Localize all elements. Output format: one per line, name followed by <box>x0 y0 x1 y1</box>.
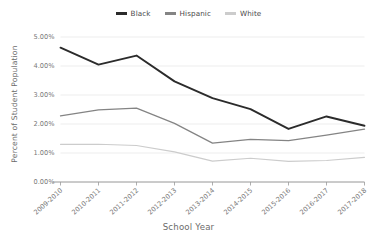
y-tick-label: 5.00% <box>34 33 55 41</box>
series-line-black <box>61 48 365 129</box>
y-tick-label: 2.00% <box>34 120 55 128</box>
x-tick-label: 2016-2017 <box>298 187 330 217</box>
y-tick-labels: 0.00%1.00%2.00%3.00%4.00%5.00% <box>34 33 55 186</box>
line-chart: Black Hispanic White Percent of Student … <box>0 0 377 241</box>
plot-area: 0.00%1.00%2.00%3.00%4.00%5.00% 2009-2010… <box>0 0 377 241</box>
x-tick-label: 2011-2012 <box>108 187 140 217</box>
x-axis-title: School Year <box>0 222 377 232</box>
x-tick-label: 2012-2013 <box>146 187 178 217</box>
series-line-hispanic <box>61 108 365 143</box>
x-tick-label: 2014-2015 <box>222 187 254 217</box>
y-tick-label: 1.00% <box>34 149 55 157</box>
data-series-group <box>61 48 365 162</box>
x-tick-label: 2013-2014 <box>184 187 216 217</box>
x-tick-label: 2009-2010 <box>32 187 64 217</box>
x-tick-labels: 2009-20102010-20112011-20122012-20132013… <box>32 187 368 217</box>
x-tick-label: 2017-2018 <box>336 187 368 217</box>
x-axis <box>53 182 365 186</box>
y-tick-label: 0.00% <box>34 178 55 186</box>
x-tick-label: 2015-2016 <box>260 187 292 217</box>
y-tick-label: 4.00% <box>34 62 55 70</box>
x-tick-label: 2010-2011 <box>70 187 102 217</box>
y-tick-label: 3.00% <box>34 91 55 99</box>
